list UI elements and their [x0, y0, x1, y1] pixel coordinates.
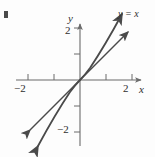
graph-figure: −2 2 2 −2 x y y = x [0, 0, 155, 157]
line-equation-label: y = x [118, 9, 139, 19]
x-axis [16, 74, 141, 80]
x-axis-tick-label-pos2: 2 [123, 83, 129, 94]
coordinate-plot [0, 0, 155, 157]
y-axis-tick-label-pos2: 2 [65, 25, 71, 36]
x-axis-tick-label-neg2: −2 [14, 83, 26, 94]
y-axis-tick-label-neg2: −2 [57, 124, 69, 135]
x-axis-name-label: x [139, 84, 144, 95]
y-axis-name-label: y [68, 13, 73, 24]
